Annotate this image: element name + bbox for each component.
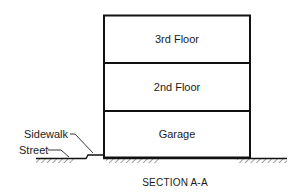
floor-label-2nd: 2nd Floor — [154, 82, 200, 93]
section-diagram: 3rd Floor 2nd Floor Garage Sidewalk Stre… — [0, 0, 304, 196]
street-label: Street — [19, 145, 48, 156]
ground-hatch-right — [237, 159, 287, 163]
sidewalk-label: Sidewalk — [24, 129, 68, 140]
street-leader — [48, 150, 69, 157]
section-caption: SECTION A-A — [142, 178, 208, 188]
floor-label-3rd: 3rd Floor — [155, 34, 199, 45]
sidewalk-leader — [70, 134, 93, 153]
ground-hatch-under-building — [106, 159, 160, 163]
section-drawing — [0, 0, 304, 196]
floor-label-garage: Garage — [159, 129, 196, 140]
ground-hatch-left — [36, 159, 74, 163]
